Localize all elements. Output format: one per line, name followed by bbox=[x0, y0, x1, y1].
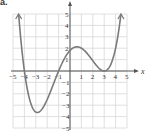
y-tick-label: −4 bbox=[62, 113, 70, 121]
y-axis-arrow-icon bbox=[68, 1, 72, 6]
x-axis-label: x bbox=[140, 67, 145, 76]
y-tick-label: −1 bbox=[62, 79, 70, 87]
x-tick-label: 3 bbox=[102, 73, 106, 81]
x-tick-label: 5 bbox=[125, 73, 129, 81]
x-tick-label: −2 bbox=[43, 73, 51, 81]
y-tick-label: 4 bbox=[65, 22, 69, 30]
y-tick-label: −5 bbox=[62, 125, 70, 133]
x-tick-label: −5 bbox=[9, 73, 17, 81]
x-tick-label: 2 bbox=[91, 73, 95, 81]
polynomial-graph: x−5−4−3−2−112345−5−4−3−2−112345 bbox=[0, 0, 145, 137]
x-tick-label: −3 bbox=[32, 73, 40, 81]
x-tick-label: 1 bbox=[79, 73, 83, 81]
y-tick-label: 5 bbox=[65, 11, 69, 19]
x-axis-arrow-icon bbox=[134, 69, 139, 73]
y-tick-label: −2 bbox=[62, 90, 70, 98]
y-tick-label: 3 bbox=[65, 33, 69, 41]
y-tick-label: −3 bbox=[62, 102, 70, 110]
x-tick-label: 4 bbox=[114, 73, 118, 81]
